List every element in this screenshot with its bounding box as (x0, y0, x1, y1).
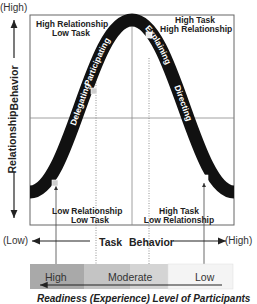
quadrant-top-right-line2: High Relationship (160, 25, 230, 34)
marker-participating (91, 88, 97, 94)
x-axis-title-task: Task (99, 236, 122, 248)
marker-delegating (52, 180, 58, 186)
x-axis-high-label: (High) (225, 235, 252, 246)
quadrant-top-left-line2: Low Task (36, 29, 106, 38)
y-axis-title-behavior: Behavior (8, 48, 20, 128)
band-label-low: Low (195, 271, 214, 283)
readiness-caption: Readiness (Experience) Level of Particip… (37, 293, 250, 304)
quadrant-bottom-left-line2: Low Task (50, 216, 130, 225)
marker-directing (202, 175, 208, 181)
x-axis-low-label: (Low) (3, 235, 28, 246)
x-axis-title-behavior: Behavior (129, 236, 174, 248)
band-label-high: High (45, 271, 67, 283)
quadrant-bottom-left-label: Low Relationship Low Task (50, 207, 130, 225)
y-axis-high-label: (High) (0, 2, 27, 13)
band-label-moderate: Moderate (108, 271, 152, 283)
quadrant-bottom-right-label: High Task Low Relationship (139, 207, 219, 225)
quadrant-top-right-label: High Task High Relationship (160, 16, 230, 34)
quadrant-bottom-right-line2: Low Relationship (139, 216, 219, 225)
quadrant-top-left-label: High Relationship Low Task (36, 20, 106, 38)
